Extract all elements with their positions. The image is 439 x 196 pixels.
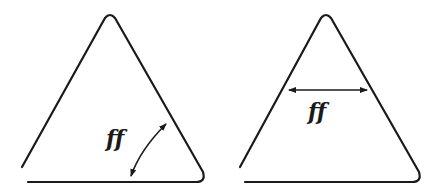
right-triangle — [240, 15, 420, 182]
left-triangle — [22, 15, 204, 182]
left-angle-label: ff — [106, 127, 124, 149]
left-angle-arrow — [131, 124, 166, 176]
left-triangle-outline — [22, 15, 204, 182]
right-width-label: ff — [308, 100, 326, 122]
diagram-canvas — [0, 0, 439, 196]
right-triangle-outline — [240, 15, 420, 182]
